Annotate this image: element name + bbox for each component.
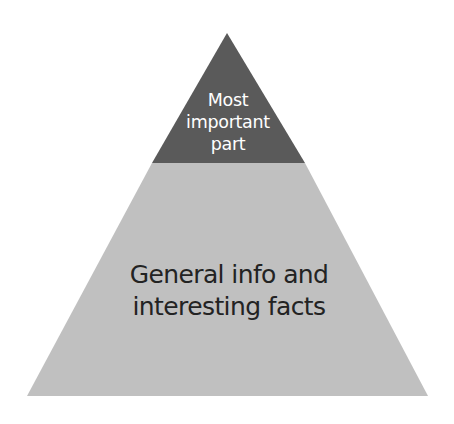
base-tier-label-line-2: interesting facts xyxy=(130,291,329,323)
pyramid-shape xyxy=(0,0,454,424)
top-tier-label: Most important part xyxy=(186,89,270,155)
top-tier-label-line-2: important xyxy=(186,111,270,133)
base-tier-label: General info and interesting facts xyxy=(130,259,329,323)
top-tier-label-line-1: Most xyxy=(186,89,270,111)
pyramid-diagram: Most important part General info and int… xyxy=(0,0,454,424)
base-tier-label-line-1: General info and xyxy=(130,259,329,291)
top-tier-label-line-3: part xyxy=(186,133,270,155)
